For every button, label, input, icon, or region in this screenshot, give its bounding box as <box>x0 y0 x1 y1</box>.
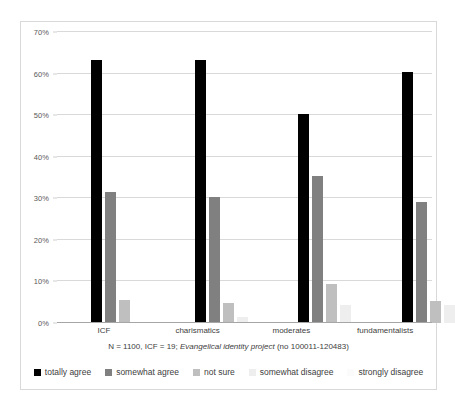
bar-group <box>161 32 265 323</box>
x-axis-tick-label: moderates <box>245 326 339 335</box>
footnote-prefix: N = 1100, ICF = 19; <box>108 342 180 351</box>
legend-swatch-icon <box>249 369 256 376</box>
y-axis-tick-label: 70% <box>34 28 49 37</box>
y-axis-tick-label: 60% <box>34 69 49 78</box>
bar <box>209 197 220 323</box>
legend-item[interactable]: somewhat agree <box>105 367 179 377</box>
x-axis-tick-label: charismatics <box>151 326 245 335</box>
legend-item[interactable]: totally agree <box>34 367 91 377</box>
bar <box>430 301 441 323</box>
y-axis-tick-label: 30% <box>34 194 49 203</box>
legend-item-label: somewhat disagree <box>260 367 334 377</box>
x-axis-tick-label: ICF <box>57 326 151 335</box>
legend-item[interactable]: somewhat disagree <box>249 367 334 377</box>
y-axis: 0%10%20%30%40%50%60%70% <box>21 22 53 324</box>
y-axis-tick-label: 10% <box>34 277 49 286</box>
bar <box>105 192 116 323</box>
x-axis-tick-label: fundamentalists <box>338 326 432 335</box>
legend-swatch-icon <box>347 369 354 376</box>
bar-group <box>57 32 161 323</box>
chart-container: 0%10%20%30%40%50%60%70% ICFcharismaticsm… <box>20 21 437 390</box>
bar <box>326 284 337 323</box>
legend-item[interactable]: strongly disagree <box>347 367 423 377</box>
x-axis-line <box>57 322 432 323</box>
bar <box>119 300 130 323</box>
bar-groups <box>57 32 432 323</box>
bar <box>223 303 234 323</box>
footnote-suffix: (no 100011-120483) <box>275 342 349 351</box>
bar <box>298 114 309 323</box>
bar <box>416 202 427 323</box>
y-axis-tick-label: 50% <box>34 111 49 120</box>
bar-group <box>265 32 369 323</box>
legend-swatch-icon <box>105 369 112 376</box>
plot-wrapper: 0%10%20%30%40%50%60%70% ICFcharismaticsm… <box>21 22 436 356</box>
bar-group <box>368 32 455 323</box>
plot-area <box>57 32 432 323</box>
y-axis-tick-label: 40% <box>34 152 49 161</box>
legend-item-label: not sure <box>204 367 235 377</box>
y-axis-tick-label: 0% <box>38 319 49 328</box>
legend-item-label: somewhat agree <box>116 367 179 377</box>
legend-item[interactable]: not sure <box>193 367 235 377</box>
chart-legend: totally agreesomewhat agreenot suresomew… <box>21 367 436 377</box>
legend-item-label: totally agree <box>45 367 91 377</box>
legend-swatch-icon <box>193 369 200 376</box>
bar <box>312 176 323 323</box>
bar <box>91 60 102 323</box>
chart-footnote: N = 1100, ICF = 19; Evangelical identity… <box>21 342 436 351</box>
bar <box>195 60 206 323</box>
footnote-project-name: Evangelical identity project <box>180 342 275 351</box>
y-axis-tick-label: 20% <box>34 235 49 244</box>
bar <box>340 305 351 323</box>
bar <box>402 72 413 323</box>
legend-swatch-icon <box>34 369 41 376</box>
legend-item-label: strongly disagree <box>358 367 423 377</box>
x-axis-labels: ICFcharismaticsmoderatesfundamentalists <box>57 326 432 335</box>
bar <box>444 305 455 323</box>
